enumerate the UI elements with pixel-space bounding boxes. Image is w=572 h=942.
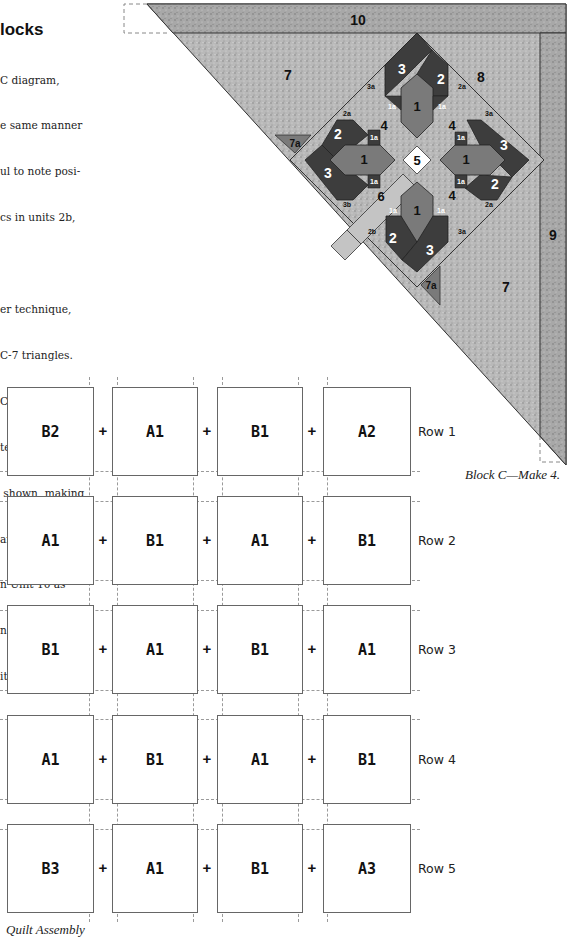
unit-label: 3 <box>324 165 332 181</box>
quilt-block: A1 <box>112 387 198 476</box>
unit-label: 2b <box>368 228 376 235</box>
plus-sign: + <box>302 640 322 657</box>
unit-label: 2a <box>343 110 351 117</box>
unit-label: 8 <box>477 69 485 85</box>
quilt-block: A1 <box>217 496 303 585</box>
plus-sign: + <box>197 750 217 767</box>
unit-label: 2 <box>491 176 499 192</box>
unit-label: 2 <box>334 126 342 142</box>
unit-label: 3a <box>485 110 493 117</box>
quilt-block: A1 <box>112 824 198 913</box>
row-label: Row 4 <box>418 752 456 767</box>
quilt-block: B1 <box>323 715 411 804</box>
plus-sign: + <box>302 859 322 876</box>
unit-label: 10 <box>350 12 366 28</box>
unit-label: 4 <box>380 118 388 133</box>
unit-label: 3a <box>367 83 375 90</box>
unit-label: 3 <box>398 61 406 77</box>
quilt-block: B1 <box>323 496 411 585</box>
unit-label: 1 <box>462 152 469 167</box>
plus-sign: + <box>197 422 217 439</box>
unit-label: 3 <box>500 137 508 153</box>
unit-label: 7a <box>289 138 301 149</box>
unit-label: 1a <box>438 103 446 110</box>
quilt-block: B1 <box>112 715 198 804</box>
unit-9-strip <box>540 33 566 465</box>
unit-label: 9 <box>549 227 557 243</box>
unit-label: 3a <box>458 228 466 235</box>
quilt-block: B1 <box>217 387 303 476</box>
row-label: Row 5 <box>418 861 456 876</box>
quilt-block: A1 <box>217 715 303 804</box>
row-label: Row 3 <box>418 642 456 657</box>
unit-label: 4 <box>448 188 456 203</box>
quilt-block: A1 <box>323 605 411 694</box>
quilt-block: A1 <box>7 715 94 804</box>
quilt-block: B3 <box>7 824 94 913</box>
unit-label: 3b <box>343 201 351 208</box>
unit-label: 1a <box>437 207 445 214</box>
unit-label: 3 <box>426 242 434 258</box>
unit-label: 1 <box>413 203 420 218</box>
quilt-block: A1 <box>7 496 94 585</box>
unit-label: 7 <box>502 279 510 295</box>
quilt-assembly-caption: Quilt Assembly <box>6 922 85 938</box>
plus-sign: + <box>302 531 322 548</box>
quilt-block: B1 <box>7 605 94 694</box>
unit-label: 4 <box>448 118 456 133</box>
unit-label: 1 <box>413 99 420 114</box>
unit-label: 1a <box>457 134 465 141</box>
quilt-block: A2 <box>323 387 411 476</box>
unit-label: 6 <box>377 189 384 204</box>
unit-label: 1a <box>457 178 465 185</box>
row-label: Row 2 <box>418 533 456 548</box>
unit-label: 7 <box>284 67 292 83</box>
row-label: Row 1 <box>418 424 456 439</box>
quilt-block: B1 <box>217 824 303 913</box>
plus-sign: + <box>93 750 113 767</box>
plus-sign: + <box>302 422 322 439</box>
unit-label: 1a <box>389 207 397 214</box>
plus-sign: + <box>93 640 113 657</box>
quilt-block: B1 <box>112 496 198 585</box>
quilt-block: B2 <box>7 387 94 476</box>
plus-sign: + <box>197 640 217 657</box>
unit-label: 2a <box>458 83 466 90</box>
unit-label: 2 <box>437 71 445 87</box>
unit-label: 7a <box>425 280 437 291</box>
unit-label: 1a <box>388 103 396 110</box>
unit-label: 2a <box>485 201 493 208</box>
unit-label: 1a <box>370 178 378 185</box>
plus-sign: + <box>302 750 322 767</box>
unit-label: 1a <box>370 134 378 141</box>
unit-label: 2 <box>389 230 397 246</box>
unit-label: 5 <box>413 153 420 168</box>
plus-sign: + <box>93 422 113 439</box>
plus-sign: + <box>197 859 217 876</box>
quilt-block: B1 <box>217 605 303 694</box>
quilt-block: A3 <box>323 824 411 913</box>
quilt-block: A1 <box>112 605 198 694</box>
plus-sign: + <box>93 859 113 876</box>
unit-label: 1 <box>360 152 367 167</box>
plus-sign: + <box>197 531 217 548</box>
plus-sign: + <box>93 531 113 548</box>
block-caption: Block C—Make 4. <box>465 467 560 483</box>
